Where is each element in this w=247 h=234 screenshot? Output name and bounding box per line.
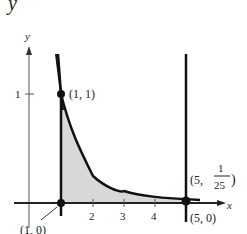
label-5-frac-prefix: (5, bbox=[190, 173, 203, 187]
y-tick-label: 1 bbox=[15, 88, 21, 100]
point-5-0 bbox=[182, 197, 191, 206]
y-axis-arrow-icon bbox=[26, 46, 32, 55]
label-5-0: (5, 0) bbox=[190, 211, 216, 225]
x-tick-label: 3 bbox=[120, 210, 126, 222]
label-1-1: (1, 1) bbox=[69, 87, 95, 101]
point-1-0 bbox=[57, 199, 65, 207]
corner-glyph: y bbox=[6, 0, 17, 15]
point-1-1 bbox=[57, 90, 65, 98]
x-tick-label: 2 bbox=[89, 210, 95, 222]
label-5-frac-num: 1 bbox=[218, 162, 224, 174]
x-tick-label: 4 bbox=[151, 210, 157, 222]
graph: y y x 1 2 3 4 (1, 1) (1, 0) (5, 0) (5, 1… bbox=[0, 0, 247, 234]
y-axis-label: y bbox=[24, 30, 30, 42]
label-5-frac-den: 25 bbox=[214, 179, 226, 191]
label-1-0: (1, 0) bbox=[20, 223, 46, 234]
x-axis-arrow-icon bbox=[217, 200, 226, 206]
label-5-frac-suffix: ) bbox=[231, 172, 236, 188]
leader-line bbox=[41, 207, 57, 220]
x-axis-label: x bbox=[226, 199, 232, 211]
